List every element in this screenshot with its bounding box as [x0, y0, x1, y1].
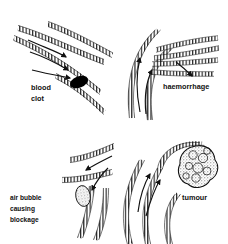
blood-clot-label-line2: clot — [31, 94, 45, 103]
air-bubble-label-line1: air bubble — [10, 194, 42, 201]
vessel-pathology-figure: blood clot — [0, 0, 228, 244]
haemorrhage-label: haemorrhage — [163, 82, 209, 91]
tumour-label: tumour — [182, 193, 207, 202]
air-bubble-label-line3: blockage — [10, 216, 39, 224]
air-bubble-label-line2: causing — [10, 205, 35, 213]
figure-canvas: blood clot — [0, 0, 228, 244]
blood-clot-label-line1: blood — [31, 83, 51, 92]
